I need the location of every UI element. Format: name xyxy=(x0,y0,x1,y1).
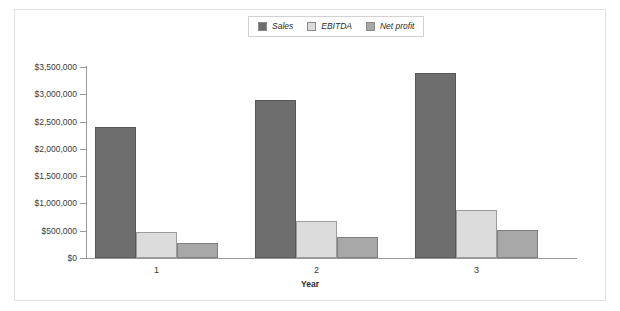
y-tick-mark xyxy=(80,149,86,150)
y-axis-labels: $0$500,000$1,000,000$1,500,000$2,000,000… xyxy=(0,0,77,311)
y-tick-label: $2,000,000 xyxy=(34,145,77,154)
y-tick-label: $500,000 xyxy=(42,227,77,236)
y-tick-label: $3,000,000 xyxy=(34,90,77,99)
y-tick-label: $2,500,000 xyxy=(34,118,77,127)
bar-ebitda-year-2[interactable] xyxy=(296,221,337,258)
y-tick-mark xyxy=(80,67,86,68)
y-tick-label: $3,500,000 xyxy=(34,63,77,72)
bar-ebitda-year-3[interactable] xyxy=(456,210,497,258)
legend-label: Net profit xyxy=(380,22,415,31)
legend-item-sales[interactable]: Sales xyxy=(258,22,293,31)
legend-swatch-icon xyxy=(258,22,267,31)
y-tick-label: $0 xyxy=(68,254,77,263)
y-tick-mark xyxy=(80,94,86,95)
x-tick-label-1: 1 xyxy=(95,266,218,275)
x-tick-label-2: 2 xyxy=(255,266,378,275)
y-tick-mark xyxy=(80,176,86,177)
y-tick-label: $1,500,000 xyxy=(34,172,77,181)
bar-sales-year-2[interactable] xyxy=(255,100,296,258)
y-tick-mark xyxy=(80,258,86,259)
legend-label: EBITDA xyxy=(321,22,352,31)
x-axis-title: Year xyxy=(0,280,620,289)
bar-ebitda-year-1[interactable] xyxy=(136,232,177,258)
chart-screenshot: SalesEBITDANet profit $0$500,000$1,000,0… xyxy=(0,0,620,311)
bar-sales-year-3[interactable] xyxy=(415,73,456,258)
bar-sales-year-1[interactable] xyxy=(95,127,136,258)
legend-swatch-icon xyxy=(307,22,316,31)
bar-net-profit-year-2[interactable] xyxy=(337,237,378,258)
legend-label: Sales xyxy=(272,22,293,31)
y-tick-mark xyxy=(80,122,86,123)
y-tick-mark xyxy=(80,203,86,204)
y-tick-mark xyxy=(80,231,86,232)
x-tick-label-3: 3 xyxy=(415,266,538,275)
legend-swatch-icon xyxy=(366,22,375,31)
bar-net-profit-year-1[interactable] xyxy=(177,243,218,258)
legend-item-ebitda[interactable]: EBITDA xyxy=(307,22,352,31)
legend-item-net-profit[interactable]: Net profit xyxy=(366,22,415,31)
bar-net-profit-year-3[interactable] xyxy=(497,230,538,258)
y-axis-line xyxy=(86,66,87,259)
y-tick-label: $1,000,000 xyxy=(34,199,77,208)
chart-legend: SalesEBITDANet profit xyxy=(248,16,424,37)
x-axis-line xyxy=(86,258,577,259)
plot-area xyxy=(95,67,575,258)
